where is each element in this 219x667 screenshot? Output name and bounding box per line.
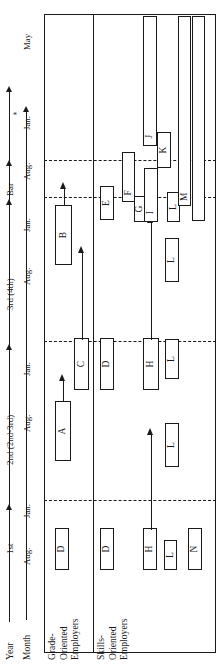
task-bar-label: H — [146, 361, 156, 368]
task-bar-label: E — [102, 200, 112, 206]
year-segment-arrow-2 — [6, 344, 12, 350]
task-bar-label: D — [102, 361, 112, 368]
year-axis-arrowhead — [6, 86, 12, 92]
year-segment-arrow-1 — [6, 504, 12, 510]
year-separator-1 — [44, 500, 216, 501]
task-bar[interactable]: M — [178, 16, 191, 206]
task-bar-label: L — [166, 552, 176, 558]
month-tick-label-7: Aug. — [23, 163, 32, 180]
task-bar[interactable]: N — [188, 528, 202, 570]
axis-row-label-year: Year — [6, 642, 16, 660]
month-tick-label-2: Jan. — [23, 504, 32, 518]
task-bar-label: M — [180, 192, 190, 200]
task-bar[interactable]: B — [55, 205, 72, 265]
task-bar-label: A — [58, 428, 68, 435]
task-bar[interactable]: A — [55, 401, 71, 461]
month-tick-label-3: Aug. — [23, 415, 32, 432]
task-bar-label: L — [167, 356, 177, 362]
group-separator-grade-skills — [93, 14, 94, 653]
task-bar-label: D — [57, 546, 67, 553]
task-bar[interactable]: F — [122, 152, 135, 202]
task-leader-line — [151, 434, 152, 530]
task-bar[interactable]: H — [143, 338, 159, 390]
task-bar-label: L — [167, 442, 177, 448]
task-bar[interactable]: L — [165, 423, 179, 467]
task-bar[interactable]: E — [100, 186, 114, 220]
task-leader-line — [82, 252, 83, 340]
task-bar-label: D — [102, 546, 112, 553]
year-separator-2 — [44, 341, 216, 342]
asterisk-marker: * — [13, 112, 17, 120]
task-bar[interactable]: D — [100, 338, 114, 390]
month-tick-label-9: May — [23, 34, 32, 50]
task-bar-label: K — [159, 147, 169, 154]
task-bar-label: B — [59, 232, 69, 238]
task-leader-arrowhead — [147, 428, 153, 435]
task-bar[interactable]: H — [143, 528, 157, 570]
year-segment-line-3 — [9, 205, 10, 340]
task-bar[interactable]: L — [165, 339, 179, 379]
axis-row-label-month: Month — [23, 635, 33, 660]
task-leader-line — [151, 222, 152, 340]
task-bar-label: I — [146, 211, 156, 214]
month-tick-label-6: Jan. — [23, 218, 32, 232]
month-tick-label-4: Jan. — [23, 362, 32, 376]
task-bar[interactable]: L — [165, 238, 179, 282]
task-bar[interactable]: K — [157, 132, 171, 168]
year-segment-label-4: Bar — [6, 183, 15, 196]
month-axis-arrowhead — [23, 106, 29, 112]
task-leader-line — [64, 188, 65, 206]
task-bar-label: C — [77, 361, 87, 367]
task-leader-arrowhead — [59, 374, 65, 381]
task-bar[interactable] — [192, 16, 205, 221]
month-tick-label-5: Aug. — [23, 268, 32, 285]
task-bar[interactable]: C — [74, 338, 89, 390]
task-bar-label: J — [145, 134, 155, 138]
task-leader-line — [63, 380, 64, 402]
task-bar[interactable]: J — [143, 16, 157, 146]
task-leader-arrowhead — [60, 182, 66, 189]
task-bar-label: L — [167, 257, 177, 263]
task-bar-label: L — [169, 204, 179, 210]
task-bar-label: N — [190, 546, 200, 553]
task-bar-label: H — [145, 546, 155, 553]
year-segment-label-3: 3rd (4th) — [6, 278, 15, 310]
task-bar[interactable]: I — [144, 168, 158, 222]
task-bar[interactable]: D — [55, 528, 69, 570]
year-segment-arrow-4 — [6, 160, 12, 166]
year-segment-line-1 — [9, 510, 10, 620]
year-segment-label-1: 1st — [6, 543, 15, 554]
gantt-figure: Year Month 1st Aug. Jan. 2nd (2nd-3rd) A… — [0, 0, 219, 667]
task-bar-label: F — [124, 190, 134, 195]
task-bar[interactable]: L — [164, 540, 177, 570]
month-tick-label-8: Jan. — [23, 116, 32, 130]
task-leader-arrowhead — [78, 246, 84, 253]
year-segment-arrow-3 — [6, 199, 12, 205]
task-bar[interactable]: D — [100, 528, 114, 570]
group-separator — [44, 14, 45, 653]
year-segment-label-2: 2nd (2nd-3rd) — [6, 415, 15, 465]
month-tick-label-1: Aug. — [23, 548, 32, 565]
